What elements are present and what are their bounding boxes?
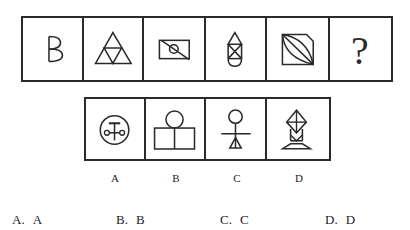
sequence-figure-4 xyxy=(206,18,267,80)
sequence-figure-1 xyxy=(23,18,84,80)
sequence-figure-5 xyxy=(267,18,331,80)
sequence-figure-3 xyxy=(144,18,206,80)
option-b[interactable]: B.B xyxy=(116,212,145,228)
candidate-d[interactable] xyxy=(267,99,329,159)
candidate-label-c: C xyxy=(227,172,247,184)
sequence-figure-2 xyxy=(84,18,145,80)
circle-over-two-boxes-icon xyxy=(146,99,204,159)
option-d[interactable]: D.D xyxy=(325,212,355,228)
stick-figure-icon xyxy=(206,99,265,159)
option-b-key: B. xyxy=(116,212,128,227)
candidate-label-a: A xyxy=(105,172,125,184)
capsule-with-x-icon xyxy=(206,18,265,80)
kite-on-stand-icon xyxy=(267,99,329,159)
candidate-c[interactable] xyxy=(206,99,267,159)
option-a-key: A. xyxy=(12,212,25,227)
missing-figure-slot: ? xyxy=(330,18,391,80)
option-d-value: D xyxy=(346,212,355,227)
candidate-label-b: B xyxy=(166,172,186,184)
candidate-b[interactable] xyxy=(146,99,206,159)
candidate-a[interactable] xyxy=(86,99,146,159)
option-d-key: D. xyxy=(325,212,338,227)
rectangle-circle-diagonal-icon xyxy=(144,18,204,80)
option-a-value: A xyxy=(33,212,42,227)
circle-with-symbol-icon xyxy=(86,99,144,159)
cut-square-with-lens-icon xyxy=(267,18,329,80)
candidate-label-d: D xyxy=(289,172,309,184)
option-c[interactable]: C.C xyxy=(220,212,249,228)
svg-text:?: ? xyxy=(351,29,369,73)
question-sequence: ? xyxy=(21,16,393,82)
candidate-figures xyxy=(84,97,331,161)
question-mark-icon: ? xyxy=(330,18,391,80)
option-c-value: C xyxy=(240,212,249,227)
option-a[interactable]: A.A xyxy=(12,212,42,228)
option-c-key: C. xyxy=(220,212,232,227)
letter-b-shape-icon xyxy=(23,18,82,80)
subdivided-triangle-icon xyxy=(84,18,143,80)
option-b-value: B xyxy=(136,212,145,227)
